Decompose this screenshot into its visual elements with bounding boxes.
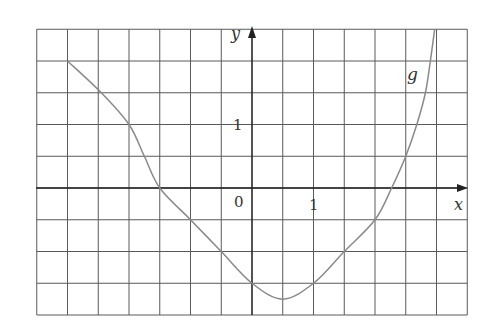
curve-g xyxy=(68,29,435,299)
y-tick-1-label: 1 xyxy=(233,116,243,134)
axes xyxy=(36,26,468,315)
y-axis-arrow-icon xyxy=(248,26,256,38)
x-axis-label: x xyxy=(454,195,463,214)
x-axis-arrow-icon xyxy=(457,184,468,192)
x-tick-1-label: 1 xyxy=(309,196,319,214)
y-axis-label: y xyxy=(230,24,241,43)
graph-of-g: y x 0 1 1 g xyxy=(0,0,488,327)
curve-label-g: g xyxy=(407,64,418,84)
origin-label: 0 xyxy=(234,193,244,211)
